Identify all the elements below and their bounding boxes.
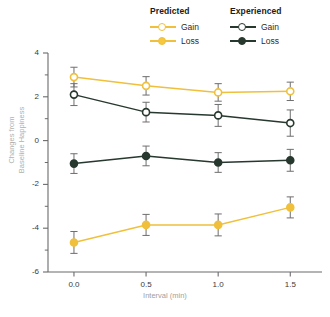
y-axis-title-line1: Changes from bbox=[7, 85, 17, 195]
y-tick-label: -4 bbox=[17, 223, 39, 232]
data-point-open-circle[interactable] bbox=[70, 91, 77, 98]
x-tick-label: 0.0 bbox=[59, 280, 89, 289]
data-point-filled-circle[interactable] bbox=[70, 160, 77, 167]
data-point-open-circle[interactable] bbox=[143, 109, 150, 116]
axis-layer bbox=[43, 53, 322, 277]
data-point-filled-circle[interactable] bbox=[215, 159, 222, 166]
y-tick-label: 4 bbox=[17, 48, 39, 57]
data-point-filled-circle[interactable] bbox=[143, 221, 150, 228]
data-point-open-circle[interactable] bbox=[215, 89, 222, 96]
data-point-filled-circle[interactable] bbox=[70, 239, 77, 246]
series-predicted-gain bbox=[70, 67, 294, 101]
x-tick-label: 1.5 bbox=[275, 280, 305, 289]
data-point-filled-circle[interactable] bbox=[287, 157, 294, 164]
x-tick-label: 0.5 bbox=[131, 280, 161, 289]
y-axis-title-line2: Baseline Happiness bbox=[17, 85, 27, 195]
data-point-filled-circle[interactable] bbox=[287, 204, 294, 211]
data-point-open-circle[interactable] bbox=[215, 112, 222, 119]
data-point-open-circle[interactable] bbox=[287, 88, 294, 95]
data-point-filled-circle[interactable] bbox=[215, 221, 222, 228]
x-tick-label: 1.0 bbox=[203, 280, 233, 289]
series-layer bbox=[70, 67, 294, 253]
y-axis-title: Changes from Baseline Happiness bbox=[7, 85, 27, 195]
series-predicted-loss bbox=[70, 197, 294, 254]
data-point-open-circle[interactable] bbox=[143, 82, 150, 89]
figure-container: Predicted Gain Loss Experienced bbox=[0, 0, 330, 317]
chart-svg bbox=[0, 0, 330, 317]
series-experienced-loss bbox=[70, 146, 294, 173]
data-point-open-circle[interactable] bbox=[70, 74, 77, 81]
y-tick-label: -6 bbox=[17, 267, 39, 276]
data-point-open-circle[interactable] bbox=[287, 120, 294, 127]
data-point-filled-circle[interactable] bbox=[143, 152, 150, 159]
x-axis-title: Interval (min) bbox=[0, 291, 330, 300]
plot-area: 420-2-4-6 0.00.51.01.5 Changes from Base… bbox=[0, 0, 330, 317]
